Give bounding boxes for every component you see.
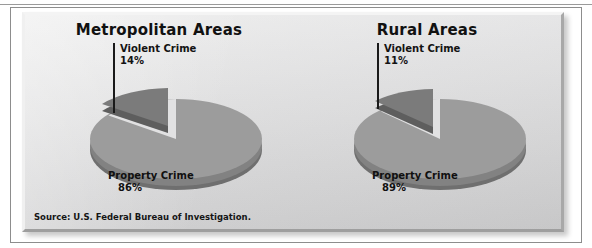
leader-line-violent-metro [113, 67, 115, 113]
slice-label-value-property-metro: 86% [108, 182, 194, 194]
figure-panel: Metropolitan Areas Violent Crime 14% [22, 12, 564, 232]
slice-label-property-metro: Property Crime 86% [108, 170, 194, 194]
callout-violent-crime-rural: Violent Crime 11% [377, 43, 460, 67]
callout-label-violent-metro: Violent Crime [120, 43, 196, 55]
chart-rural-areas: Rural Areas Violent Crime 11% [293, 15, 561, 229]
source-note: Source: U.S. Federal Bureau of Investiga… [34, 212, 251, 222]
slice-label-property-rural: Property Crime 89% [372, 170, 458, 194]
callout-value-violent-metro: 14% [120, 55, 196, 67]
callout-value-violent-rural: 11% [384, 55, 460, 67]
slice-label-name-property-metro: Property Crime [108, 170, 194, 182]
slice-label-value-property-rural: 89% [372, 182, 458, 194]
charts-container: Metropolitan Areas Violent Crime 14% [25, 15, 561, 229]
callout-violent-crime-metro: Violent Crime 14% [113, 43, 196, 67]
chart-metropolitan-areas: Metropolitan Areas Violent Crime 14% [25, 15, 293, 229]
leader-line-violent-rural [377, 67, 379, 109]
chart-title-rural: Rural Areas [293, 21, 561, 39]
top-divider-rule [0, 4, 592, 5]
chart-title-metropolitan: Metropolitan Areas [25, 21, 293, 39]
callout-label-violent-rural: Violent Crime [384, 43, 460, 55]
slice-label-name-property-rural: Property Crime [372, 170, 458, 182]
